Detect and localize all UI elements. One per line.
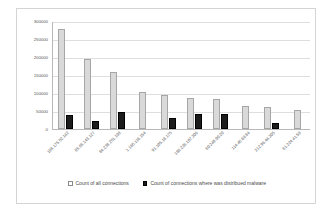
x-axis-label: 61.224.41.58 [282, 131, 302, 151]
bar-series-2[interactable] [169, 118, 176, 129]
x-axis-label: 188.175.52.142 [46, 131, 69, 154]
x-axis-label: 91.105.18.175 [151, 131, 173, 153]
chart-container: 300000250000200000150000100000500000 188… [16, 8, 316, 204]
bar-groups [53, 22, 310, 129]
x-axis-label: 1.165.116.154 [126, 131, 148, 153]
legend-label: Count of connections where was distribue… [150, 181, 266, 186]
y-axis-tick: 250000 [34, 38, 48, 42]
x-axis-label: 85.65.143.127 [74, 131, 96, 153]
bar-series-1[interactable] [213, 99, 220, 129]
x-axis-label: 212.96.44.205 [255, 131, 277, 153]
y-axis-tick: 0 [46, 128, 48, 132]
bar-group [259, 22, 285, 129]
bar-group [233, 22, 259, 129]
y-axis-tick: 200000 [34, 56, 48, 60]
bar-group [207, 22, 233, 129]
bar-series-2[interactable] [92, 121, 99, 129]
chart-legend: Count of all connectionsCount of connect… [17, 181, 317, 186]
y-axis-tick: 300000 [34, 20, 48, 24]
legend-item[interactable]: Count of all connections [68, 181, 129, 186]
x-axis-label: 60.249.90.20 [205, 131, 225, 151]
bar-series-1[interactable] [58, 29, 65, 129]
bar-series-1[interactable] [84, 59, 91, 129]
plot-area [52, 22, 310, 130]
bar-series-1[interactable] [242, 106, 249, 129]
bar-series-1[interactable] [110, 72, 117, 129]
y-axis: 300000250000200000150000100000500000 [17, 9, 50, 135]
bar-series-1[interactable] [139, 92, 146, 129]
x-axis-label: 84.238.251.198 [98, 131, 121, 154]
bar-series-2[interactable] [195, 114, 202, 129]
bar-series-1[interactable] [161, 95, 168, 129]
x-axis-label: 188.226.107.206 [174, 131, 199, 156]
bar-group [156, 22, 182, 129]
legend-swatch-icon [143, 181, 148, 186]
chart-plot-wrapper: 300000250000200000150000100000500000 188… [17, 9, 317, 205]
bar-group [79, 22, 105, 129]
x-axis-label: 114.46.68.84 [231, 131, 251, 151]
bar-series-2[interactable] [272, 123, 279, 129]
bar-series-1[interactable] [294, 110, 301, 129]
y-axis-tick: 150000 [34, 74, 48, 78]
y-axis-tick: 100000 [34, 92, 48, 96]
bar-series-2[interactable] [118, 112, 125, 129]
bar-group [182, 22, 208, 129]
legend-swatch-icon [68, 181, 73, 186]
x-axis: 188.175.52.14285.65.143.12784.238.251.19… [52, 131, 310, 179]
bar-group [284, 22, 310, 129]
bar-group [130, 22, 156, 129]
bar-group [53, 22, 79, 129]
bar-series-1[interactable] [264, 107, 271, 129]
y-axis-tick: 50000 [36, 110, 48, 114]
bar-series-2[interactable] [221, 114, 228, 129]
legend-item[interactable]: Count of connections where was distribue… [143, 181, 266, 186]
bar-series-1[interactable] [187, 98, 194, 129]
legend-label: Count of all connections [76, 181, 129, 186]
bar-series-2[interactable] [66, 115, 73, 129]
bar-group [104, 22, 130, 129]
